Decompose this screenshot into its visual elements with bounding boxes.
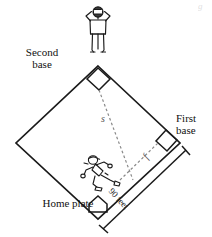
- label-home-plate: Home plate: [42, 198, 94, 210]
- label-first-base: First base: [176, 113, 212, 136]
- person-with-binoculars-icon: [86, 7, 110, 52]
- corner-artifact-mark: g: [198, 1, 206, 10]
- segment-s-dashed: [99, 90, 133, 180]
- baseball-diamond-figure: Second base First base Home plate s f 90…: [0, 0, 212, 237]
- second-base-square-icon: [87, 68, 110, 90]
- label-second-base: Second base: [16, 47, 68, 70]
- label-variable-s: s: [101, 113, 105, 124]
